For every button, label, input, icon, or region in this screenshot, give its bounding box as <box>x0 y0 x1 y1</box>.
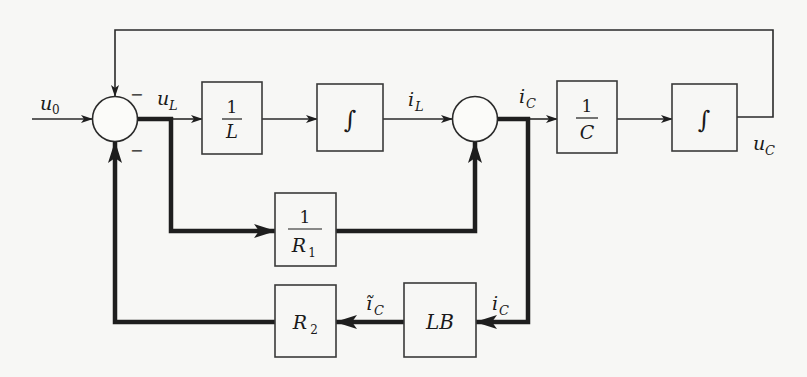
svg-text:1: 1 <box>300 207 311 227</box>
block-diagram: 1 L ∫ 1 C ∫ 1 R 1 R 2 LB u 0 − − u <box>0 0 807 377</box>
block-LB: LB <box>404 283 476 357</box>
svg-text:i: i <box>408 88 414 110</box>
label-iC-top: i C <box>519 85 536 111</box>
svg-text:R: R <box>291 234 306 256</box>
svg-text:L: L <box>414 99 424 114</box>
svg-text:1: 1 <box>227 97 238 117</box>
sign-minus-top: − <box>130 85 143 104</box>
label-iL: i L <box>408 88 424 114</box>
svg-text:u: u <box>157 87 169 109</box>
integral-icon: ∫ <box>698 106 711 134</box>
block-inv-C: 1 C <box>557 81 617 153</box>
ic-branch-line <box>476 117 528 322</box>
svg-text:C: C <box>765 143 775 158</box>
sign-minus-bottom: − <box>130 141 143 160</box>
label-uL: u L <box>157 87 178 113</box>
block-integrator-1: ∫ <box>317 84 383 151</box>
svg-text:C: C <box>374 303 384 318</box>
svg-text:R: R <box>292 311 307 333</box>
block-inv-L: 1 L <box>202 82 262 154</box>
svg-text:C: C <box>526 96 536 111</box>
block-R2: R 2 <box>275 285 336 357</box>
r1-out-line <box>336 142 475 231</box>
svg-text:1: 1 <box>308 246 316 260</box>
svg-text:0: 0 <box>52 103 60 117</box>
svg-text:C: C <box>580 121 595 143</box>
svg-text:i: i <box>492 292 498 314</box>
svg-text:i: i <box>519 85 525 107</box>
integral-icon: ∫ <box>344 106 357 134</box>
label-iC-tilde: ĩ C <box>366 292 384 318</box>
label-iC-right: i C <box>492 292 509 318</box>
svg-text:L: L <box>168 98 178 113</box>
svg-text:ĩ: ĩ <box>366 292 374 314</box>
block-inv-R1: 1 R 1 <box>275 193 336 266</box>
svg-text:C: C <box>499 303 509 318</box>
svg-text:LB: LB <box>425 310 454 334</box>
summing-junction-2 <box>453 97 498 142</box>
svg-text:1: 1 <box>582 96 593 116</box>
svg-text:u: u <box>40 92 52 114</box>
svg-text:L: L <box>225 121 238 142</box>
svg-text:2: 2 <box>310 323 318 337</box>
label-u0: u 0 <box>40 92 60 117</box>
label-uC: u C <box>753 132 775 158</box>
svg-text:u: u <box>753 132 765 154</box>
block-integrator-2: ∫ <box>672 84 737 151</box>
